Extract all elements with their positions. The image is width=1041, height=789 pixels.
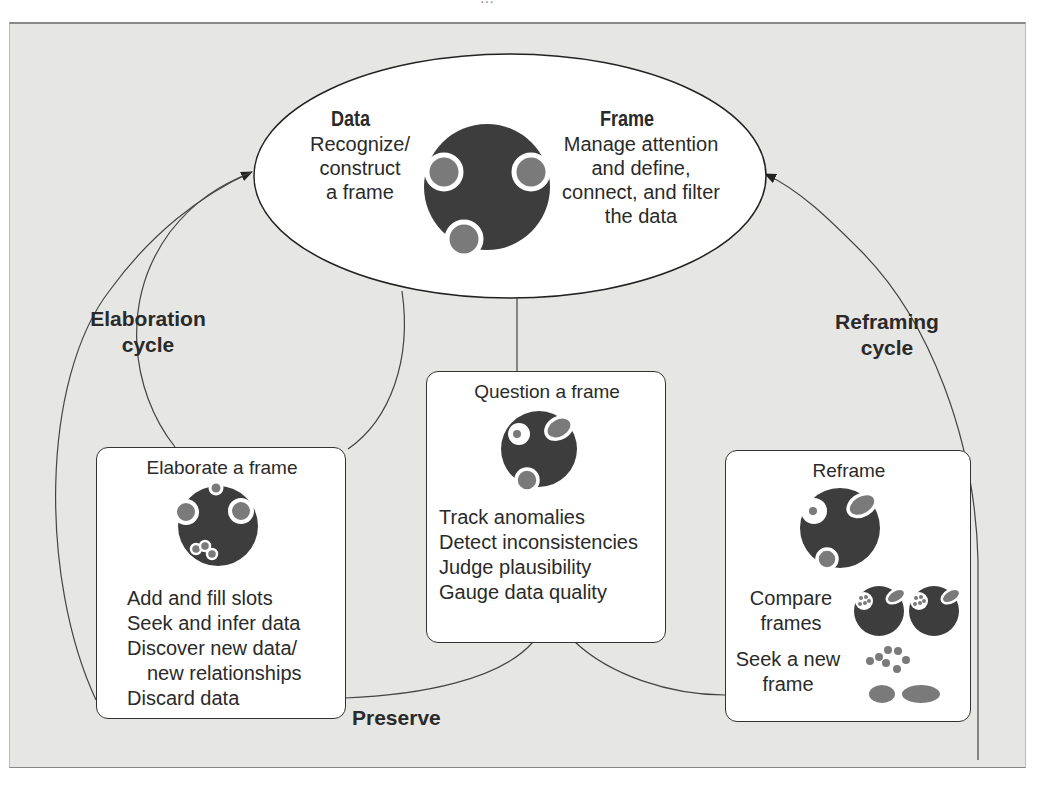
- data-title: Data: [331, 107, 370, 130]
- question-title: Question a frame: [427, 382, 667, 402]
- frame-line: and define,: [556, 156, 726, 180]
- scattered-data-icon: [866, 645, 966, 715]
- elaborate-item: Add and fill slots: [127, 586, 302, 611]
- frame-title: Frame: [600, 107, 654, 130]
- elaborated-frame-icon: [173, 478, 273, 578]
- compare-line: frames: [736, 611, 846, 636]
- elaborate-title: Elaborate a frame: [97, 458, 347, 478]
- elaborate-item: Discover new data/: [127, 636, 302, 661]
- preserve-right-curve: [575, 642, 725, 695]
- reframe-icon: [800, 481, 900, 581]
- seek-line: frame: [728, 672, 848, 697]
- elaborate-items: Add and fill slots Seek and infer data D…: [127, 586, 302, 711]
- question-item: Gauge data quality: [439, 580, 638, 605]
- preserve-left-curve: [345, 642, 533, 698]
- elaborate-item: new relationships: [127, 661, 302, 686]
- elaboration-cycle-label: Elaboration cycle: [88, 306, 208, 358]
- compare-frames-label: Compare frames: [736, 586, 846, 636]
- reframing-cycle-label: Reframing cycle: [827, 309, 947, 361]
- compare-line: Compare: [736, 586, 846, 611]
- elaborate-item: Seek and infer data: [127, 611, 302, 636]
- ellipse-to-elaborate-curve: [348, 291, 404, 449]
- preserve-label: Preserve: [352, 707, 441, 729]
- elaboration-line: Elaboration: [88, 306, 208, 332]
- question-item: Judge plausibility: [439, 555, 638, 580]
- question-item: Detect inconsistencies: [439, 530, 638, 555]
- data-description: Recognize/ construct a frame: [300, 132, 420, 204]
- reframing-line: Reframing: [827, 309, 947, 335]
- data-line: Recognize/: [300, 132, 420, 156]
- frame-line: Manage attention: [556, 132, 726, 156]
- data-line: a frame: [300, 180, 420, 204]
- reframing-line: cycle: [827, 335, 947, 361]
- question-item: Track anomalies: [439, 505, 638, 530]
- frame-line: connect, and filter: [556, 180, 726, 204]
- frame-description: Manage attention and define, connect, an…: [556, 132, 726, 228]
- reframe-title: Reframe: [726, 461, 972, 481]
- elaborate-frame-box: Elaborate a frame Add and fill slots See…: [96, 447, 346, 719]
- data-line: construct: [300, 156, 420, 180]
- question-frame-box: Question a frame Track anomalies Detect …: [426, 371, 666, 643]
- seek-new-frame-label: Seek a new frame: [728, 647, 848, 697]
- compare-frames-icon: [854, 583, 969, 643]
- reframe-box: Reframe Compare frames Seek a new: [725, 450, 971, 722]
- elaboration-line: cycle: [88, 332, 208, 358]
- seek-line: Seek a new: [728, 647, 848, 672]
- frame-line: the data: [556, 204, 726, 228]
- question-items: Track anomalies Detect inconsistencies J…: [439, 505, 638, 605]
- questioned-frame-icon: [499, 404, 599, 504]
- elaborate-item: Discard data: [127, 686, 302, 711]
